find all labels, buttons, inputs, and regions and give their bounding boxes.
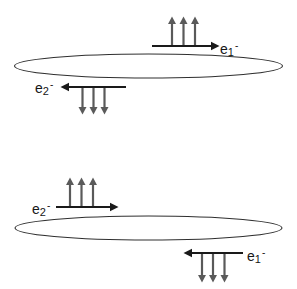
lower-loop-ellipse <box>15 216 282 240</box>
current-arrowhead-left-icon <box>61 83 70 91</box>
upper-loop-ellipse <box>15 54 283 78</box>
upper-loop-group <box>15 17 283 115</box>
current-arrowhead-left-icon <box>184 249 193 257</box>
electron-charge-sign: - <box>47 200 50 211</box>
field-arrowhead-up-icon <box>180 17 188 25</box>
electron-subscript: 1 <box>255 253 261 265</box>
field-arrowhead-down-icon <box>90 107 98 115</box>
current-arrowhead-right-icon <box>211 42 220 50</box>
electron-symbol: e <box>247 248 255 264</box>
lower-e1-label: e1- <box>247 245 265 267</box>
electron-charge-sign: - <box>50 79 53 90</box>
field-arrowhead-up-icon <box>191 17 199 25</box>
lower-e2-label: e2- <box>32 198 50 220</box>
lower-e1-field-arrows-down <box>198 253 229 283</box>
upper-e2-label: e2- <box>35 77 53 99</box>
electron-charge-sign: - <box>262 247 265 258</box>
upper-e1-label: e1- <box>220 38 238 60</box>
field-arrowhead-up-icon <box>66 178 74 186</box>
field-arrowhead-down-icon <box>198 275 206 283</box>
field-arrowhead-down-icon <box>221 275 229 283</box>
field-arrowhead-down-icon <box>79 107 87 115</box>
electron-symbol: e <box>220 41 228 57</box>
field-arrowhead-up-icon <box>168 17 176 25</box>
lower-loop-group <box>15 178 282 283</box>
current-arrowhead-right-icon <box>110 203 119 211</box>
electron-symbol: e <box>35 80 43 96</box>
electron-symbol: e <box>32 201 40 217</box>
upper-e1-current-arrow-right <box>152 42 220 50</box>
electron-subscript: 2 <box>43 85 49 97</box>
electron-current-field-diagram: e1- e2- e2- e1- <box>0 0 297 289</box>
field-arrowhead-down-icon <box>101 107 109 115</box>
field-arrowhead-down-icon <box>209 275 217 283</box>
field-arrowhead-up-icon <box>78 178 86 186</box>
lower-e2-field-arrows-up <box>66 178 97 208</box>
electron-charge-sign: - <box>235 40 238 51</box>
electron-subscript: 2 <box>40 206 46 218</box>
field-arrowhead-up-icon <box>89 178 97 186</box>
electron-subscript: 1 <box>228 46 234 58</box>
upper-e2-field-arrows-down <box>79 87 109 115</box>
upper-e1-field-arrows-up <box>168 17 199 47</box>
lower-e2-current-arrow-right <box>56 203 119 211</box>
